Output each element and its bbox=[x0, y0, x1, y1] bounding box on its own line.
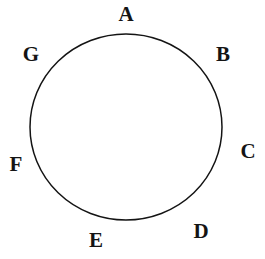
point-label-e: E bbox=[89, 230, 103, 251]
point-label-b: B bbox=[216, 44, 230, 65]
point-label-c: C bbox=[240, 141, 255, 162]
figure-canvas: A B C D E F G bbox=[0, 0, 265, 259]
point-label-g: G bbox=[23, 44, 39, 65]
point-label-f: F bbox=[10, 154, 23, 175]
circle-diagram-svg bbox=[0, 0, 265, 259]
point-label-d: D bbox=[193, 221, 208, 242]
point-label-a: A bbox=[118, 4, 133, 25]
circle-outline bbox=[30, 34, 222, 220]
